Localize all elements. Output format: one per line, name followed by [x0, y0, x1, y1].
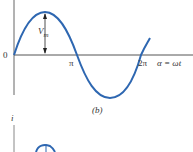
- figure-caption: (b): [92, 105, 103, 115]
- arrow-down-icon: [43, 48, 47, 54]
- two-pi-label: 2π: [138, 58, 147, 68]
- amplitude-sub: m: [44, 31, 49, 39]
- amplitude-label: Vm: [38, 26, 49, 39]
- pi-label: π: [69, 58, 74, 68]
- arrow-up-icon: [43, 13, 47, 19]
- axis-label: α = ωt: [157, 58, 181, 68]
- origin-label: 0: [3, 50, 8, 60]
- lower-axis-label: i: [11, 113, 14, 123]
- sine-wave-figure: [0, 0, 193, 152]
